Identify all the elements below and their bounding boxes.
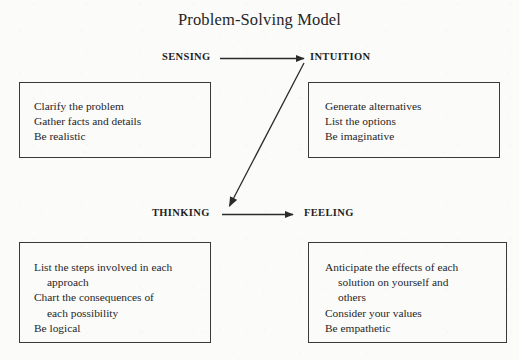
diagram-canvas: Problem-Solving Model SENSING INTUITION … — [0, 0, 519, 360]
arrow-layer — [0, 0, 519, 360]
arrow-intuition-to-thinking — [230, 63, 305, 206]
